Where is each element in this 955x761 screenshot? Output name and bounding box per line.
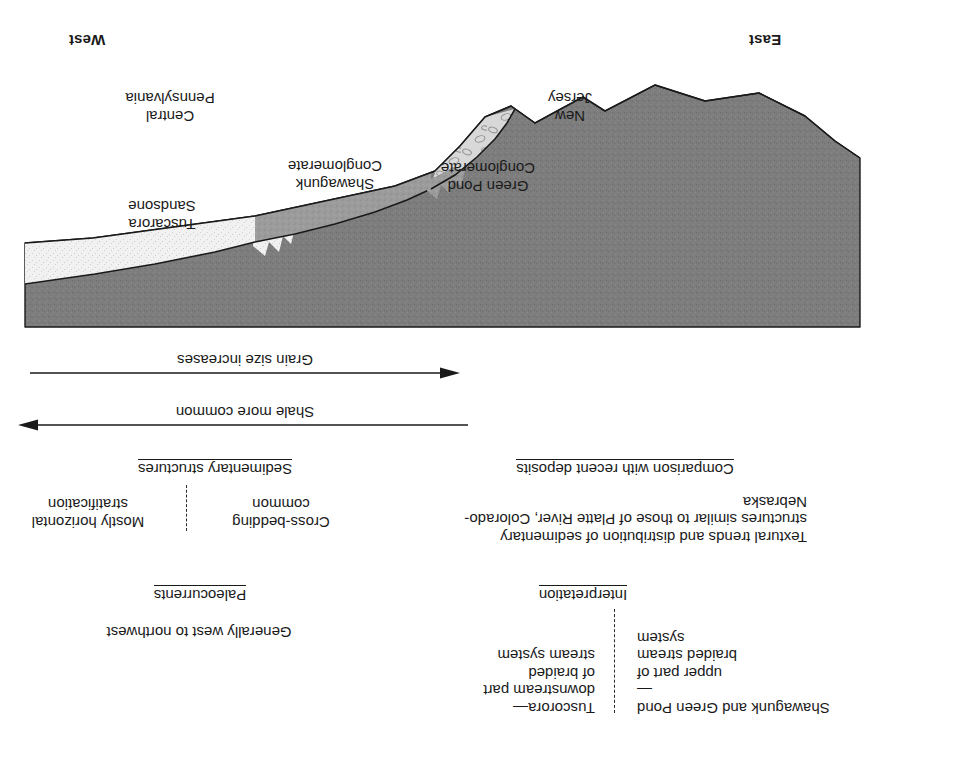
shawagunk-line-1: Shawagunk [255, 176, 415, 194]
unit-label-tuscarora-sandstone: Tuscarora Sandsone [87, 198, 237, 233]
interp-left-line-2: upper part of [637, 665, 837, 683]
new-jersey-line-2: Jersey [515, 90, 625, 108]
interp-right-line-4: stream system [405, 647, 595, 665]
sed-left-line-2: common [201, 496, 361, 514]
sedimentary-structures-right-column: Mostly horizontal stratification [3, 496, 173, 531]
comparison-line-1: Textural trends and distribution of sedi… [387, 529, 807, 547]
sedimentary-structures-heading: Sedimentary structures [70, 459, 360, 478]
sedimentary-structures-left-column: Cross-bedding common [201, 496, 361, 531]
comparison-heading: Comparison with recent deposits [445, 459, 805, 478]
green-pond-line-1: Green Pond [413, 178, 563, 196]
sedimentary-structures-divider [186, 485, 187, 531]
comparison-line-2: structures similar to those of Platte Ri… [387, 511, 807, 529]
sed-right-line-2: stratification [3, 496, 173, 514]
sed-right-line-1: Mostly horizontal [3, 514, 173, 532]
interpretation-heading: Interpretation [473, 585, 693, 604]
green-pond-line-2: Conglomerate [413, 160, 563, 178]
shale-trend-label: Shale more common [35, 404, 455, 421]
interpretation-left-column: Shawagunk and Green Pond— upper part of … [637, 630, 837, 718]
geologic-cross-section-figure: Interpretation Shawagunk and Green Pond—… [0, 0, 955, 761]
paleocurrents-heading: Paleocurrents [85, 585, 315, 604]
interp-right-line-2: downstream part [405, 682, 595, 700]
interp-right-line-1: Tuscorora— [405, 700, 595, 718]
grain-size-trend-label: Grain size increases [35, 352, 455, 369]
unit-label-shawagunk-conglomerate: Shawagunk Conglomerate [255, 158, 415, 193]
comparison-line-3: Nebraska [387, 494, 807, 512]
interp-left-line-1: Shawagunk and Green Pond— [637, 682, 837, 717]
sed-left-line-1: Cross-bedding [201, 514, 361, 532]
direction-label-west: West [47, 32, 127, 49]
paleocurrents-text: Generally west to northwest [59, 624, 339, 642]
interp-left-line-3: braided stream [637, 647, 837, 665]
new-jersey-line-1: New [515, 108, 625, 126]
direction-label-east: East [725, 32, 805, 49]
tuscarora-line-2: Sandsone [87, 198, 237, 216]
place-label-new-jersey: New Jersey [515, 90, 625, 125]
central-pa-line-2: Pennsylvania [90, 90, 250, 108]
shawagunk-line-2: Conglomerate [255, 158, 415, 176]
unit-label-green-pond-conglomerate: Green Pond Conglomerate [413, 160, 563, 195]
interp-right-line-3: of braided [405, 665, 595, 683]
place-label-central-pennsylvania: Central Pennsylvania [90, 90, 250, 125]
interpretation-right-column: Tuscorora— downstream part of braided st… [405, 647, 595, 717]
interp-left-line-4: system [637, 630, 837, 648]
tuscarora-line-1: Tuscarora [87, 216, 237, 234]
comparison-body: Textural trends and distribution of sedi… [387, 494, 807, 547]
interpretation-divider [614, 609, 615, 713]
central-pa-line-1: Central [90, 108, 250, 126]
